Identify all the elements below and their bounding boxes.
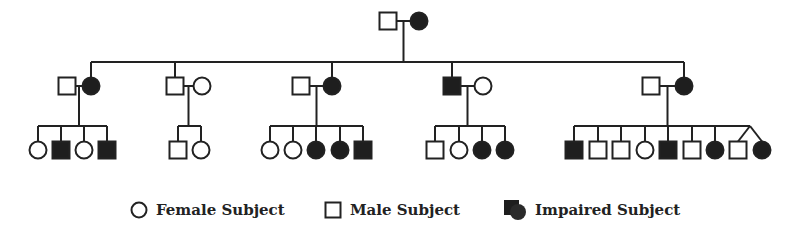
affected-male-symbol — [566, 142, 583, 159]
unaffected-female-symbol — [193, 142, 210, 159]
affected-female-symbol — [332, 142, 349, 159]
affected-male-symbol — [444, 78, 461, 95]
affected-female-symbol — [497, 142, 514, 159]
unaffected-male-symbol — [170, 142, 187, 159]
affected-female-symbol — [754, 142, 771, 159]
unaffected-male-symbol — [590, 142, 607, 159]
unaffected-female-symbol — [475, 78, 492, 95]
unaffected-male-symbol — [613, 142, 630, 159]
unaffected-female-symbol — [285, 142, 302, 159]
pedigree-chart — [0, 0, 799, 200]
unaffected-male-symbol — [167, 78, 184, 95]
affected-male-symbol — [355, 142, 372, 159]
legend-male: Male Subject — [324, 198, 460, 222]
legend-female: Female Subject — [130, 198, 285, 222]
affected-female-symbol — [707, 142, 724, 159]
affected-male-symbol — [99, 142, 116, 159]
legend-impaired: Impaired Subject — [503, 198, 680, 222]
unaffected-male-symbol — [380, 13, 397, 30]
unaffected-female-symbol — [262, 142, 279, 159]
male-symbol-icon — [324, 201, 342, 219]
legend-male-label: Male Subject — [350, 201, 460, 219]
legend-impaired-label: Impaired Subject — [535, 201, 680, 219]
unaffected-male-symbol — [684, 142, 701, 159]
unaffected-male-symbol — [427, 142, 444, 159]
legend-female-label: Female Subject — [156, 201, 285, 219]
unaffected-male-symbol — [59, 78, 76, 95]
unaffected-female-symbol — [451, 142, 468, 159]
affected-male-symbol — [660, 142, 677, 159]
impaired-symbol-icon — [503, 199, 527, 221]
connector-line — [738, 126, 750, 142]
unaffected-male-symbol — [293, 78, 310, 95]
female-symbol-icon — [130, 201, 148, 219]
affected-female-symbol — [474, 142, 491, 159]
unaffected-female-symbol — [30, 142, 47, 159]
affected-female-symbol — [308, 142, 325, 159]
unaffected-female-symbol — [76, 142, 93, 159]
unaffected-female-symbol — [637, 142, 654, 159]
unaffected-female-symbol — [194, 78, 211, 95]
legend: Female Subject Male Subject Impaired Sub… — [0, 198, 799, 222]
affected-male-symbol — [53, 142, 70, 159]
affected-female-symbol — [411, 13, 428, 30]
connector-line — [750, 126, 762, 142]
affected-female-symbol — [83, 78, 100, 95]
unaffected-male-symbol — [643, 78, 660, 95]
affected-female-symbol — [324, 78, 341, 95]
unaffected-male-symbol — [730, 142, 747, 159]
affected-female-symbol — [676, 78, 693, 95]
